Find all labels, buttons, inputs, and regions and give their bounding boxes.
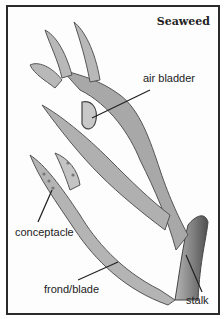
conceptacle-leader	[38, 190, 52, 222]
label-frond-blade: frond/blade	[44, 283, 99, 295]
air-bladder-shape	[82, 102, 96, 129]
label-conceptacle: conceptacle	[15, 226, 74, 238]
label-air-bladder: air bladder	[143, 72, 195, 84]
seaweed-illustration	[0, 0, 224, 319]
diagram-title: Seaweed	[157, 15, 210, 28]
label-stalk: stalk	[186, 294, 209, 306]
